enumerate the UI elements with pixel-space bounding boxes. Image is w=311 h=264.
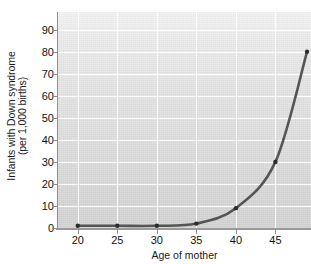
x-axis-tick-label: 35 [190, 234, 202, 246]
vertical-gridline [275, 12, 276, 228]
chart-figure: Infants with Down syndrome (per 1,000 bi… [0, 0, 311, 264]
x-axis-tick-label: 30 [151, 234, 163, 246]
horizontal-gridline [58, 140, 311, 141]
horizontal-gridline [58, 206, 311, 207]
horizontal-gridline [58, 96, 311, 97]
horizontal-gridline [58, 184, 311, 185]
plot-texture [58, 12, 311, 228]
y-axis-tick-mark [52, 74, 57, 75]
y-axis-title: Infants with Down syndrome (per 1,000 bi… [0, 0, 34, 232]
horizontal-gridline [58, 30, 311, 31]
horizontal-gridline [58, 162, 311, 163]
y-axis-tick-mark [52, 228, 57, 229]
y-axis-tick-mark [52, 52, 57, 53]
vertical-gridline [117, 12, 118, 228]
plot-area [58, 12, 311, 228]
x-axis-tick-label: 40 [230, 234, 242, 246]
x-axis-line [56, 228, 311, 230]
y-axis-tick-mark [52, 118, 57, 119]
vertical-gridline [236, 12, 237, 228]
vertical-gridline [157, 12, 158, 228]
y-axis-tick-mark [52, 162, 57, 163]
x-axis-title: Age of mother [58, 249, 311, 261]
horizontal-gridline [58, 118, 311, 119]
x-axis-tick-label: 25 [111, 234, 123, 246]
y-axis-tick-mark [52, 184, 57, 185]
y-axis-tick-labels: 0102030405060708090 [30, 0, 54, 264]
y-axis-tick-mark [52, 140, 57, 141]
x-axis-tick-label: 45 [269, 234, 281, 246]
y-axis-title-line-2: (per 1,000 births) [17, 77, 28, 155]
y-axis-tick-mark [52, 96, 57, 97]
y-axis-tick-mark [52, 30, 57, 31]
vertical-gridline [78, 12, 79, 228]
horizontal-gridline [58, 52, 311, 53]
vertical-gridline [196, 12, 197, 228]
horizontal-gridline [58, 74, 311, 75]
y-axis-line [57, 12, 58, 229]
y-axis-tick-mark [52, 206, 57, 207]
x-axis-tick-label: 20 [72, 234, 84, 246]
